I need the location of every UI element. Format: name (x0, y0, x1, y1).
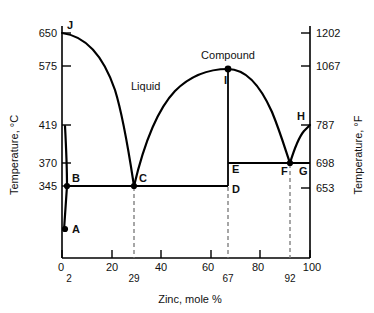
bottom-axis-ticks: 0 20 40 60 80 100 2 29 67 92 (58, 250, 321, 284)
point-label-I: I (224, 74, 227, 86)
right-tick-label-787: 787 (316, 119, 334, 131)
phase-diagram-figure: 650 575 419 370 345 1202 1067 787 698 65… (0, 0, 374, 313)
point-label-C: C (139, 172, 147, 184)
left-tick-label-575: 575 (39, 60, 57, 72)
left-tick-label-345: 345 (39, 180, 57, 192)
dashed-dropdown-lines (134, 164, 290, 258)
point-marker-I (225, 66, 232, 73)
x-tick-label-20: 20 (106, 261, 118, 273)
x-tick-label-60: 60 (202, 261, 214, 273)
x-tick-label-40: 40 (155, 261, 167, 273)
region-label-liquid: Liquid (131, 80, 160, 92)
point-marker-F (287, 160, 293, 166)
liquidus-curve-F-to-H (290, 125, 310, 163)
left-tick-label-650: 650 (39, 27, 57, 39)
point-marker-B (64, 183, 70, 189)
point-label-G: G (299, 165, 308, 177)
left-axis-title: Temperature, °C (8, 115, 20, 195)
right-tick-label-1202: 1202 (316, 27, 340, 39)
x-tick-label-92: 92 (284, 273, 296, 284)
liquidus-curves (62, 33, 310, 230)
x-tick-label-67: 67 (222, 273, 234, 284)
point-label-A: A (72, 223, 80, 235)
axis-lines (62, 26, 310, 258)
liquidus-curve-I-to-F (228, 69, 290, 163)
point-label-E: E (232, 163, 239, 175)
x-tick-label-2: 2 (66, 273, 72, 284)
right-tick-label-698: 698 (316, 157, 334, 169)
bottom-axis-title: Zinc, mole % (158, 293, 222, 305)
left-tick-label-370: 370 (39, 157, 57, 169)
left-tick-label-419: 419 (39, 119, 57, 131)
point-label-H: H (297, 110, 305, 122)
right-tick-label-653: 653 (316, 182, 334, 194)
point-marker-C (131, 183, 137, 189)
x-tick-label-80: 80 (252, 261, 264, 273)
point-label-B: B (72, 172, 80, 184)
point-label-F: F (281, 165, 288, 177)
x-tick-label-0: 0 (58, 261, 64, 273)
point-labels: J A B C D E F G H I (67, 19, 308, 235)
point-markers (62, 66, 293, 233)
x-tick-label-29: 29 (128, 273, 140, 284)
liquidus-curve-J-to-C (62, 33, 134, 186)
eutectic-tielines (67, 163, 310, 186)
solvus-curve-A-to-B (64, 126, 67, 230)
right-tick-label-1067: 1067 (316, 60, 340, 72)
phase-diagram-svg: 650 575 419 370 345 1202 1067 787 698 65… (0, 0, 374, 313)
x-tick-label-100: 100 (303, 261, 321, 273)
point-marker-A (62, 226, 68, 232)
right-axis-title: Temperature, °F (352, 115, 364, 194)
point-label-J: J (67, 19, 73, 31)
point-label-D: D (232, 183, 240, 195)
region-label-compound: Compound (201, 49, 255, 61)
